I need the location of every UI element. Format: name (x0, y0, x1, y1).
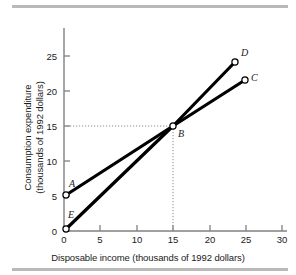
x-tick-label-10: 10 (127, 234, 147, 245)
y-axis-ticks (64, 56, 70, 231)
x-axis-title: Disposable income (thousands of 1992 dol… (0, 252, 296, 263)
x-tick-label-0: 0 (54, 234, 74, 245)
y-axis-title: Consumption expenditure (thousands of 19… (22, 43, 45, 233)
x-tick-label-5: 5 (90, 234, 110, 245)
series-line-ad (66, 62, 235, 195)
annotation-point-b: B (178, 128, 184, 139)
y-axis-title-line2: (thousands of 1992 dollars) (33, 81, 44, 193)
annotation-point-a: A (69, 178, 75, 189)
marker-point-a (63, 192, 69, 198)
chart-figure: 0 5 10 15 20 25 0 5 10 15 20 25 30 A E B… (0, 0, 296, 275)
marker-point-b (170, 123, 176, 129)
marker-point-d (232, 59, 238, 65)
series-line-ec (66, 80, 245, 229)
annotation-point-c: C (251, 72, 258, 83)
x-tick-label-20: 20 (200, 234, 220, 245)
x-tick-label-25: 25 (236, 234, 256, 245)
annotation-point-d: D (241, 47, 248, 58)
x-tick-label-30: 30 (272, 234, 292, 245)
y-axis-title-line1: Consumption expenditure (22, 85, 33, 191)
x-tick-label-15: 15 (163, 234, 183, 245)
marker-point-e (63, 226, 69, 232)
marker-point-c (242, 77, 248, 83)
annotation-point-e: E (68, 209, 74, 220)
